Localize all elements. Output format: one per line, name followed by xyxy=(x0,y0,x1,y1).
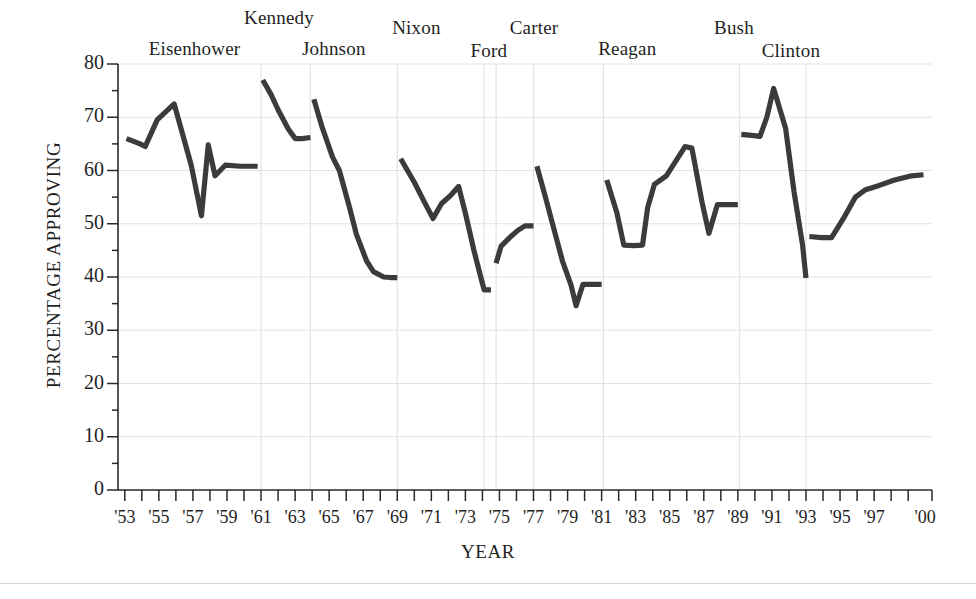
approval-line-eisenhower xyxy=(127,104,258,216)
approval-lines xyxy=(127,80,924,306)
y-tick-label: 20 xyxy=(46,371,104,394)
president-label-bush: Bush xyxy=(714,17,754,39)
x-axis xyxy=(118,490,932,501)
approval-rating-chart: PERCENTAGE APPROVING YEAR 01020304050607… xyxy=(0,0,976,599)
approval-line-kennedy xyxy=(263,80,311,139)
y-tick-label: 30 xyxy=(46,317,104,340)
president-label-ford: Ford xyxy=(471,40,508,62)
president-label-johnson: Johnson xyxy=(302,38,366,60)
y-tick-label: 60 xyxy=(46,158,104,181)
approval-line-clinton xyxy=(809,175,923,238)
y-tick-label: 50 xyxy=(46,211,104,234)
approval-line-johnson xyxy=(314,99,397,277)
footer-rule xyxy=(0,583,976,584)
president-label-reagan: Reagan xyxy=(598,38,656,60)
president-label-clinton: Clinton xyxy=(762,40,820,62)
y-tick-label: 0 xyxy=(46,477,104,500)
president-label-nixon: Nixon xyxy=(392,17,441,39)
president-label-carter: Carter xyxy=(510,17,559,39)
approval-line-carter xyxy=(537,166,602,306)
president-label-kennedy: Kennedy xyxy=(244,7,314,29)
x-tick-label: '00 xyxy=(903,507,947,528)
y-axis xyxy=(107,64,118,490)
y-tick-label: 80 xyxy=(46,51,104,74)
y-tick-label: 70 xyxy=(46,104,104,127)
horizontal-gridlines xyxy=(118,64,932,437)
president-label-eisenhower: Eisenhower xyxy=(149,38,241,60)
approval-line-ford xyxy=(496,226,533,263)
approval-line-reagan xyxy=(607,147,738,246)
x-axis-title: YEAR xyxy=(0,541,976,563)
x-tick-label: '97 xyxy=(852,507,896,528)
y-tick-label: 10 xyxy=(46,424,104,447)
y-tick-label: 40 xyxy=(46,264,104,287)
